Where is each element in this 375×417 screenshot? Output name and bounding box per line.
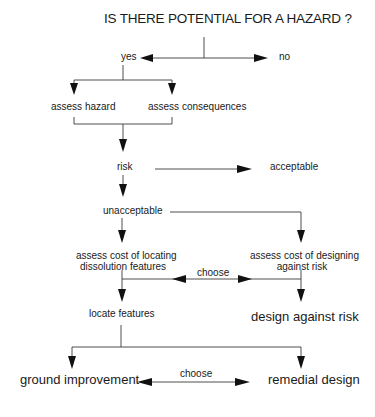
assess-cost-designing-line2: against risk [250,261,354,272]
arrow-right-icon [238,275,252,283]
node-ground-improvement: ground improvement [20,373,139,386]
flowchart-connectors [0,0,375,417]
arrow-down-icon [297,230,305,243]
arrow-right-icon [254,54,268,62]
arrow-right-icon [235,378,250,386]
arrow-left-icon [140,54,153,62]
arrow-down-icon [297,356,305,369]
node-assess-cost-locating: assess cost of locating dissolution feat… [76,250,170,272]
arrow-down-icon [118,289,126,302]
node-no: no [279,52,290,62]
node-unacceptable: unacceptable [103,206,163,216]
arrow-down-icon [118,230,126,243]
arrow-down-icon [168,83,176,95]
arrow-left-icon [137,378,152,386]
assess-cost-locating-line2: dissolution features [76,261,170,272]
choose-upper-label: choose [197,268,229,278]
arrow-right-icon [237,165,252,173]
node-assess-consequences: assess consequences [148,102,246,112]
arrow-down-icon [70,83,78,95]
choose-lower-label: choose [180,369,212,379]
node-yes: yes [121,52,137,62]
node-assess-cost-designing: assess cost of designing against risk [250,250,354,272]
assess-cost-designing-line1: assess cost of designing [250,250,354,261]
node-design-against-risk: design against risk [251,310,359,323]
arrow-down-icon [119,184,127,197]
node-locate-features: locate features [89,309,155,319]
node-acceptable: acceptable [270,162,318,172]
arrow-down-icon [119,139,127,152]
node-risk: risk [117,162,133,172]
page-title: IS THERE POTENTIAL FOR A HAZARD ? [104,12,352,26]
arrow-down-icon [297,289,305,302]
node-assess-hazard: assess hazard [51,102,115,112]
arrow-left-icon [172,275,186,283]
node-remedial-design: remedial design [268,373,360,386]
assess-cost-locating-line1: assess cost of locating [76,250,170,261]
arrow-down-icon [68,356,76,369]
